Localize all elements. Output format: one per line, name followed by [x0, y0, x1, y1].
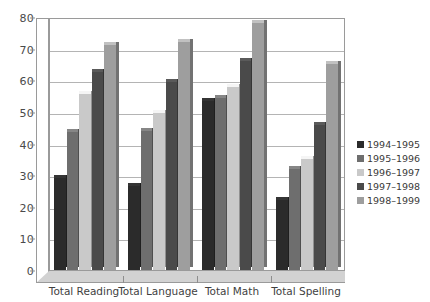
bar [252, 23, 264, 270]
bar-face [202, 101, 214, 270]
bar [178, 42, 190, 270]
bar-face [326, 64, 338, 270]
bar-side-face [338, 61, 341, 267]
legend-swatch-icon [357, 183, 364, 190]
x-axis-category-labels: Total ReadingTotal LanguageTotal MathTot… [36, 284, 356, 302]
bar-top-face [301, 156, 313, 159]
x-axis-category-label: Total Language [118, 284, 198, 298]
legend: 1994–19951995–19961996–19971997–19981998… [357, 138, 430, 208]
legend-item: 1995–1996 [357, 152, 430, 165]
y-axis-tick-mark [30, 112, 35, 113]
bar-top-face [227, 84, 239, 87]
bar [92, 72, 104, 270]
y-axis-tick-mark [30, 49, 35, 50]
legend-item: 1998–1999 [357, 194, 430, 207]
bar [289, 169, 301, 270]
bar-top-face [92, 69, 104, 72]
legend-swatch-icon [357, 169, 364, 176]
bar [54, 178, 66, 270]
legend-item-label: 1996–1997 [367, 168, 420, 178]
bar-top-face [79, 91, 91, 94]
bar-top-face [178, 39, 190, 42]
bar-face [153, 113, 165, 270]
x-axis-tick-mark [123, 276, 124, 283]
axis-depth-front-edge [36, 18, 37, 283]
bar-top-face [67, 129, 79, 132]
legend-item: 1996–1997 [357, 166, 430, 179]
bar [202, 101, 214, 270]
y-axis-tick-mark [30, 18, 35, 19]
plot-area [49, 18, 345, 271]
bar-group [124, 19, 198, 270]
axis-depth-wall [36, 18, 49, 283]
bar-face [240, 61, 252, 270]
bar-face [141, 131, 153, 270]
bar [67, 132, 79, 270]
legend-swatch-icon [357, 155, 364, 162]
legend-swatch-icon [357, 141, 364, 148]
bar-face [215, 98, 227, 270]
bar-top-face [289, 166, 301, 169]
bar-face [54, 178, 66, 270]
bar-face [276, 200, 288, 270]
bar-face [128, 186, 140, 270]
bar-face [104, 45, 116, 270]
bar-face [252, 23, 264, 270]
bar-top-face [141, 128, 153, 131]
bar-top-face [326, 61, 338, 64]
legend-item-label: 1994–1995 [367, 140, 420, 150]
bar-top-face [215, 95, 227, 98]
bar-face [79, 94, 91, 270]
x-axis-category-label: Total Spelling [271, 284, 341, 298]
legend-item: 1994–1995 [357, 138, 430, 151]
x-axis-tick-mark [197, 276, 198, 283]
bar [166, 82, 178, 270]
y-axis-tick-mark [30, 144, 35, 145]
bar-chart: 01020304050607080 Total ReadingTotal Lan… [0, 0, 430, 302]
bar-top-face [153, 110, 165, 113]
legend-item: 1997–1998 [357, 180, 430, 193]
bar [227, 87, 239, 270]
bar-side-face [190, 39, 193, 267]
bar-top-face [276, 197, 288, 200]
bar-top-face [202, 98, 214, 101]
bar-face [301, 159, 313, 270]
floor-front-edge [36, 282, 345, 283]
y-axis-tick-mark [30, 81, 35, 82]
y-axis-tick-mark [30, 271, 35, 272]
bar-top-face [252, 20, 264, 23]
y-axis-tick-mark [30, 176, 35, 177]
chart-floor [36, 271, 345, 283]
y-axis-tick-mark [30, 239, 35, 240]
bar [314, 125, 326, 270]
bar-face [178, 42, 190, 270]
bar [240, 61, 252, 270]
bar-group [272, 19, 346, 270]
bar [153, 113, 165, 270]
x-axis-tick-mark [271, 276, 272, 283]
bar-side-face [116, 42, 119, 267]
bar [215, 98, 227, 270]
bar [301, 159, 313, 270]
bar-top-face [314, 122, 326, 125]
bar [141, 131, 153, 270]
bar-face [289, 169, 301, 270]
bar [128, 186, 140, 270]
bar-top-face [54, 175, 66, 178]
bar [104, 45, 116, 270]
bar-top-face [104, 42, 116, 45]
bar-face [314, 125, 326, 270]
bar-top-face [166, 79, 178, 82]
bar-group [198, 19, 272, 270]
bar-top-face [128, 183, 140, 186]
bar [276, 200, 288, 270]
bar-side-face [264, 20, 267, 267]
axis-depth-top-slant [36, 18, 49, 19]
x-axis-category-label: Total Reading [49, 284, 119, 298]
legend-item-label: 1997–1998 [367, 182, 420, 192]
y-axis-tick-mark [30, 207, 35, 208]
legend-swatch-icon [357, 197, 364, 204]
legend-item-label: 1995–1996 [367, 154, 420, 164]
bar-face [67, 132, 79, 270]
bar-face [92, 72, 104, 270]
